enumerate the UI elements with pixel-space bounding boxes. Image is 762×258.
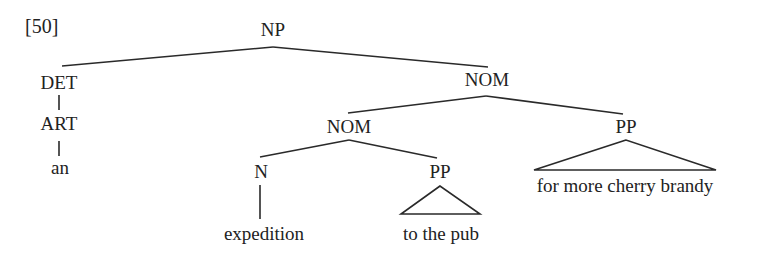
leaf-expedition: expedition bbox=[224, 224, 304, 243]
branch-nom-pp-inner bbox=[349, 140, 437, 158]
node-np: NP bbox=[261, 20, 285, 39]
leaf-pp-inner: to the pub bbox=[403, 224, 479, 243]
leaf-pp-right: for more cherry brandy bbox=[537, 176, 714, 195]
triangle-pp-right bbox=[534, 140, 716, 170]
branch-nom-nom bbox=[348, 96, 486, 113]
triangle-pp-inner bbox=[401, 186, 480, 214]
node-pp-inner: PP bbox=[429, 162, 450, 181]
tree-branches bbox=[0, 0, 762, 258]
node-art: ART bbox=[41, 114, 78, 133]
node-n: N bbox=[254, 162, 268, 181]
node-det: DET bbox=[41, 73, 78, 92]
branch-nom-n bbox=[260, 140, 349, 157]
branch-nom-pp bbox=[486, 96, 623, 114]
leaf-an: an bbox=[51, 158, 69, 177]
node-nom-top: NOM bbox=[465, 70, 509, 89]
branch-np-nom bbox=[273, 47, 488, 67]
example-number: [50] bbox=[25, 16, 58, 36]
node-nom-inner: NOM bbox=[327, 117, 371, 136]
branch-np-det bbox=[62, 47, 273, 66]
node-pp-right: PP bbox=[615, 117, 636, 136]
